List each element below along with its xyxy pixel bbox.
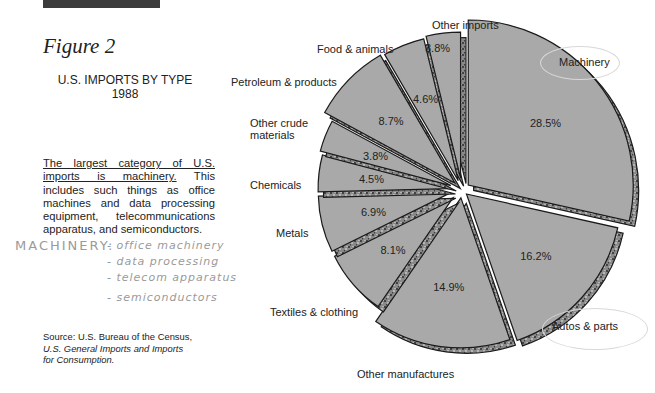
slice-percent-label: 28.5% <box>530 117 561 129</box>
label-chemicals: Chemicals <box>250 179 301 191</box>
slice-percent-label: 4.5% <box>359 173 384 185</box>
label-other-crude-line1: Other crude <box>250 117 308 129</box>
label-machinery: Machinery <box>559 56 610 68</box>
label-other-manufactures: Other manufactures <box>357 368 454 380</box>
slice-percent-label: 3.8% <box>363 150 388 162</box>
slice-percent-label: 8.7% <box>379 115 404 127</box>
label-other-imports: Other imports <box>432 19 499 31</box>
slice-percent-label: 4.6% <box>413 93 438 105</box>
slice-percent-label: 6.9% <box>361 206 386 218</box>
label-food: Food & animals <box>317 43 393 55</box>
slice-percent-label: 16.2% <box>520 250 551 262</box>
label-other-crude-line2: materials <box>250 129 308 141</box>
slice-percent-label: 8.1% <box>380 244 405 256</box>
slice-percent-label: 14.9% <box>433 281 464 293</box>
label-autos: Autos & parts <box>552 320 618 332</box>
label-other-crude: Other crude materials <box>250 117 308 141</box>
label-petroleum: Petroleum & products <box>231 76 337 88</box>
label-textiles: Textiles & clothing <box>270 306 358 318</box>
label-metals: Metals <box>276 227 308 239</box>
label-other-imports-pct: 3.8% <box>425 42 450 54</box>
